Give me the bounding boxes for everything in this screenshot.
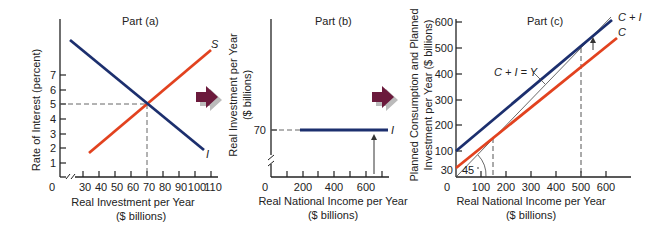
y-tick-label: 2 <box>50 142 56 154</box>
part-a-title: Part (a) <box>122 15 159 27</box>
origin-label: 0 <box>262 181 268 193</box>
x-tick-label: 30 <box>79 181 91 193</box>
x-tick-label: 200 <box>294 181 312 193</box>
x-tick-label: 500 <box>572 181 590 193</box>
angle-label: 45 <box>462 164 474 176</box>
curve-label-I: I <box>206 148 209 160</box>
angle-arc <box>478 155 486 177</box>
right-arrow-icon <box>372 86 398 111</box>
figure: Part (a) 1 2 3 4 5 6 7 0 <box>0 0 672 238</box>
y-tick-label: 200 <box>435 119 453 131</box>
y-tick-label: 500 <box>435 42 453 54</box>
part-c-title: Part (c) <box>527 15 563 27</box>
y-tick-label: 4 <box>50 113 56 125</box>
x-tick-label: 50 <box>111 181 123 193</box>
y-tick-label: 30 <box>441 164 453 176</box>
x-tick-label: 70 <box>143 181 155 193</box>
saving-curve-S <box>89 50 211 153</box>
x-tick-label: 300 <box>522 181 540 193</box>
y-tick-label-70: 70 <box>254 124 266 136</box>
axis-break-icon <box>66 174 75 179</box>
part-a-x-label-units: ($ billions) <box>116 210 166 222</box>
part-a-y-label: Rate of Interest (percent) <box>30 49 42 171</box>
x-tick-label: 80 <box>159 181 171 193</box>
part-b-title: Part (b) <box>315 15 352 27</box>
consumption-investment-line <box>456 20 612 151</box>
x-tick-label: 600 <box>597 181 615 193</box>
consumption-line-C <box>456 38 617 168</box>
x-tick-label: 110 <box>204 181 222 193</box>
origin-label: 0 <box>444 181 450 193</box>
up-arrow-icon <box>371 134 377 140</box>
curve-label-C-plus-I: C + I <box>618 11 642 23</box>
y-tick-label: 400 <box>435 68 453 80</box>
y-tick-label: 5 <box>50 98 56 110</box>
part-a-chart: Part (a) 1 2 3 4 5 6 7 0 <box>30 15 222 222</box>
x-tick-label: 200 <box>497 181 515 193</box>
x-tick-label: 40 <box>95 181 107 193</box>
y-tick-label: 7 <box>50 69 56 81</box>
x-tick-label: 60 <box>127 181 139 193</box>
y-tick-label: 1 <box>50 157 56 169</box>
part-b-x-label-units: ($ billions) <box>308 209 358 221</box>
part-c-y-label-units: Investment per Year ($ billions) <box>422 19 434 170</box>
x-tick-label: 400 <box>547 181 565 193</box>
right-arrow-icon <box>196 86 222 111</box>
investment-curve-I <box>70 40 204 150</box>
part-b-y-label: Real Investment per Year <box>227 33 239 157</box>
x-tick-label: 100 <box>472 181 490 193</box>
part-c-x-label-units: ($ billions) <box>506 209 556 221</box>
equation-label: C + I = Y <box>494 66 538 78</box>
y-tick-label: 6 <box>50 84 56 96</box>
y-tick-label: 600 <box>435 16 453 28</box>
x-tick-label: 400 <box>325 181 343 193</box>
part-b-y-label-units: ($ billions) <box>241 70 253 120</box>
y-tick-label: 300 <box>435 94 453 106</box>
part-c-x-label: Real National Income per Year <box>456 195 606 207</box>
part-c-y-label: Planned Consumption and Planned <box>408 8 420 181</box>
y-tick-label: 3 <box>50 128 56 140</box>
y-tick-label: 100 <box>435 145 453 157</box>
part-b-chart: Part (b) 0 200 400 600 70 I Real Nationa… <box>227 15 408 221</box>
part-b-x-label: Real National Income per Year <box>258 195 408 207</box>
curve-label-S: S <box>211 38 219 50</box>
x-tick-label: 90 <box>175 181 187 193</box>
part-a-x-label: Real Investment per Year <box>71 196 195 208</box>
part-c-chart: Part (c) 30 100 200 300 400 500 600 0 10… <box>408 8 642 221</box>
x-tick-label: 600 <box>357 181 375 193</box>
curve-label-I: I <box>391 124 394 136</box>
curve-label-C: C <box>618 26 626 38</box>
origin-label: 0 <box>49 181 55 193</box>
